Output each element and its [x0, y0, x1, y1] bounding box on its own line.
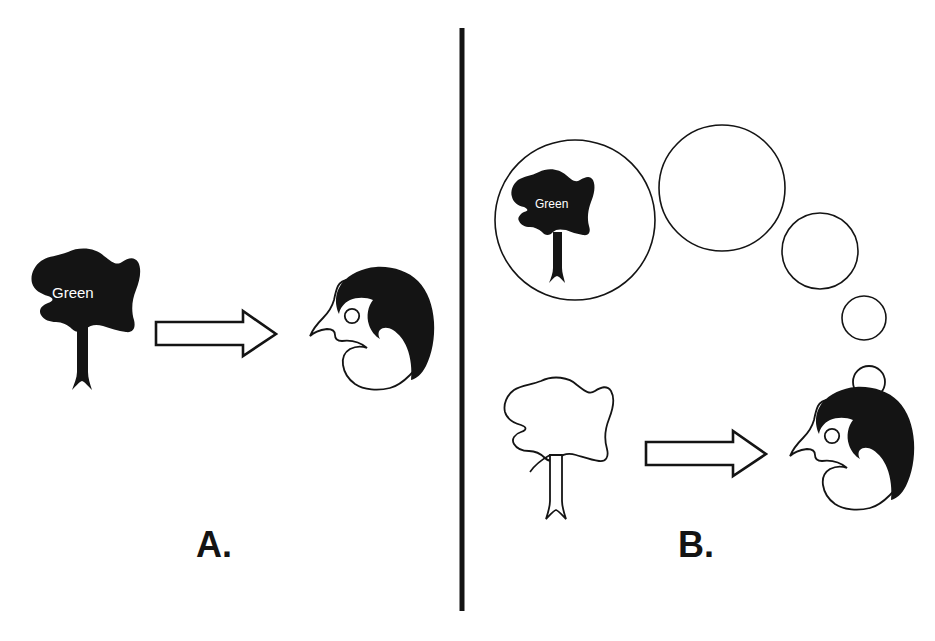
thought-bubble-medium	[659, 125, 785, 251]
eye-icon	[345, 309, 359, 323]
eye-icon	[825, 429, 839, 443]
thought-bubble-tiny	[842, 296, 886, 340]
figure-artwork	[0, 0, 935, 641]
panel-label-b: B.	[678, 527, 714, 563]
right-arrow-outline	[646, 431, 766, 476]
thought-bubble-small	[782, 213, 858, 289]
tree-trunk-filled	[72, 326, 92, 390]
panel-b-group	[495, 125, 914, 519]
panel-label-a: A.	[196, 527, 232, 563]
outline-tree-crown	[504, 378, 613, 462]
black-tree-filled	[31, 249, 140, 390]
right-arrow-outline	[156, 311, 276, 356]
tree-word-green-panel-a: Green	[52, 285, 94, 300]
figure-canvas: Green Green A. B.	[0, 0, 935, 641]
profile-head-left-facing	[310, 267, 434, 390]
tree-word-green-panel-b: Green	[535, 198, 568, 210]
profile-head-left-facing	[790, 387, 914, 510]
panel-a-group	[31, 249, 434, 390]
outline-tree-trunk	[546, 455, 566, 519]
outline-tree-branch	[530, 455, 550, 472]
outline-tree-unfilled	[504, 378, 613, 519]
